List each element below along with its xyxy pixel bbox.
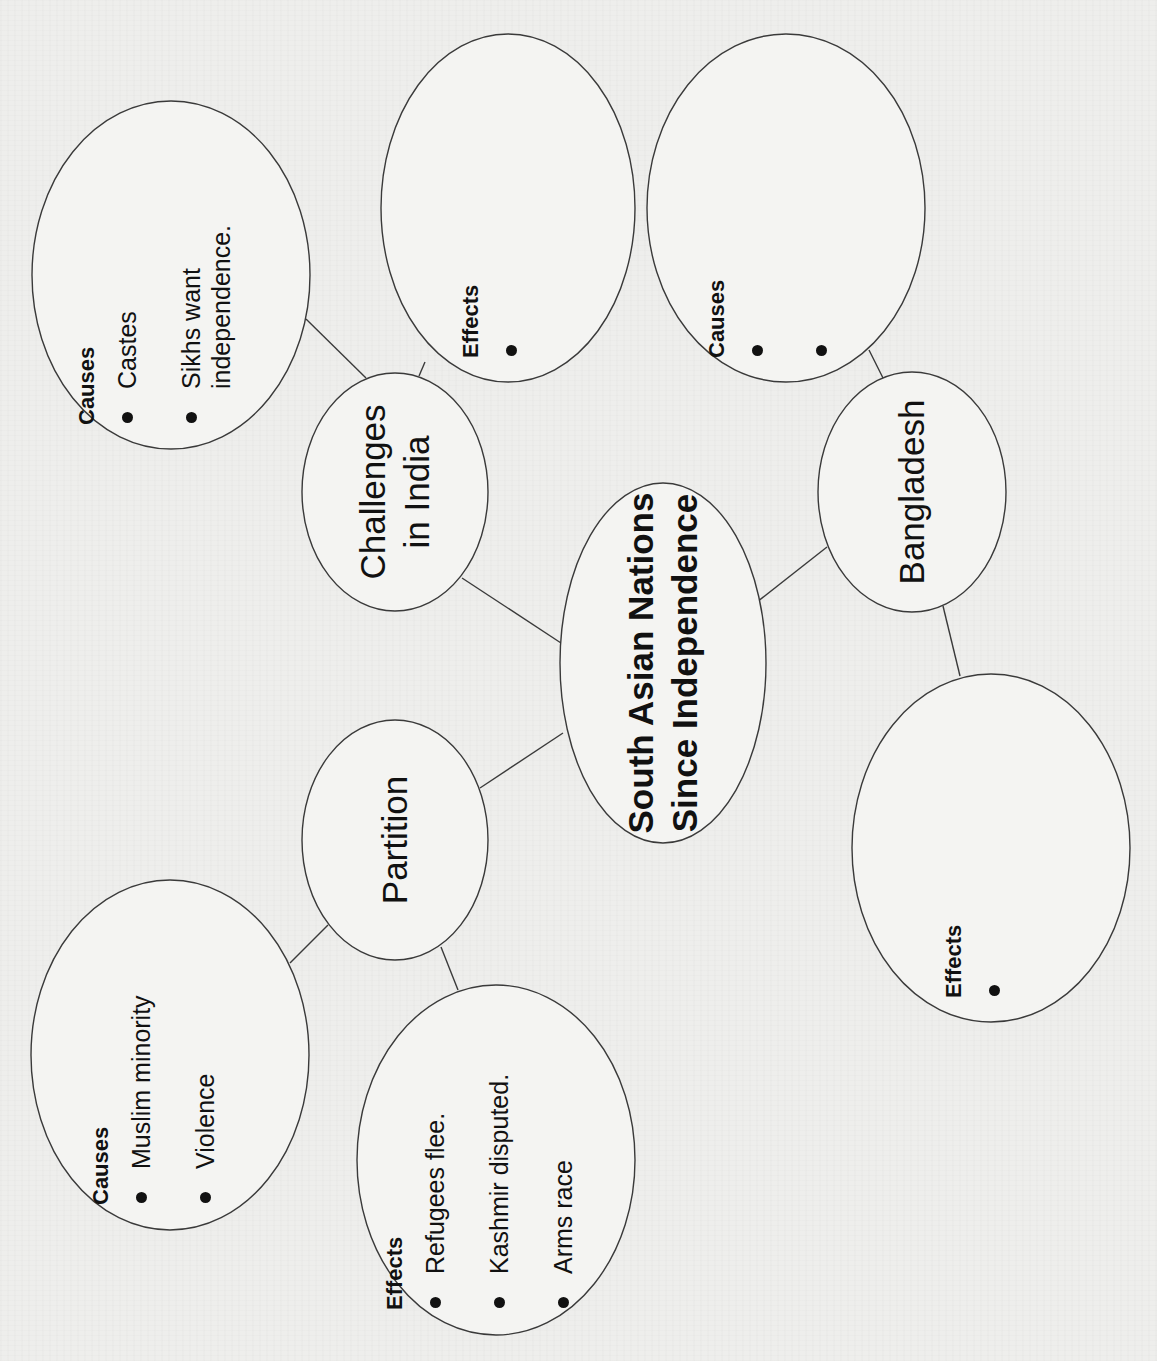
- bullet-item: Violence: [190, 905, 220, 1205]
- detail-partition-causes: CausesMuslim minorityViolence: [86, 905, 254, 1205]
- detail-india-effects: Effects: [456, 58, 560, 358]
- connector-challenges-india-to-india-causes: [306, 319, 366, 378]
- detail-heading: Causes: [702, 58, 732, 358]
- connector-partition-to-partition-effects: [441, 947, 458, 990]
- detail-heading: Effects: [939, 698, 969, 998]
- topic-bangladesh: Bangladesh: [890, 400, 934, 585]
- bullet-item: Refugees flee.: [420, 1010, 450, 1310]
- topic-label-line: Bangladesh: [890, 400, 934, 585]
- bullet-item: Sikhs want independence.: [176, 125, 236, 425]
- topic-label-line: in India: [395, 404, 439, 579]
- blank-bullet-item: [979, 698, 1009, 998]
- concept-web-diagram: South Asian NationsSince IndependenceCha…: [0, 0, 1157, 1361]
- bullet-item: Muslim minority: [126, 905, 156, 1205]
- bullet-list: [496, 58, 526, 358]
- detail-heading: Effects: [456, 58, 486, 358]
- blank-bullet-item: [806, 58, 836, 358]
- bullet-text: Refugees flee.: [421, 1113, 449, 1274]
- bullet-dot-icon: [136, 1192, 147, 1203]
- connector-bangladesh-to-bangladesh-effects: [943, 606, 960, 676]
- bullet-dot-icon: [186, 412, 197, 423]
- bullet-text: Arms race: [549, 1160, 577, 1274]
- bullet-list: [979, 698, 1009, 998]
- detail-bangladesh-effects: Effects: [939, 698, 1043, 998]
- connector-challenges-india-to-india-effects: [419, 362, 425, 376]
- bullet-list: Muslim minorityViolence: [126, 905, 220, 1205]
- connector-partition-to-partition-causes: [290, 925, 328, 963]
- blank-bullet-item: [496, 58, 526, 358]
- bullet-text: Castes: [113, 311, 141, 389]
- bullet-dot-icon: [430, 1297, 441, 1308]
- bullet-item: Castes: [112, 125, 142, 425]
- center-title: South Asian NationsSince Independence: [619, 493, 707, 834]
- bullet-text: Muslim minority: [127, 995, 155, 1169]
- bullet-list: Refugees flee.Kashmir disputed.Arms race: [420, 1010, 578, 1310]
- bullet-item: Kashmir disputed.: [484, 1010, 514, 1310]
- bullet-list: CastesSikhs want independence.: [112, 125, 236, 425]
- topic-label-line: Partition: [373, 776, 417, 904]
- bullet-dot-icon: [752, 345, 763, 356]
- bullet-dot-icon: [558, 1297, 569, 1308]
- detail-heading: Causes: [72, 125, 102, 425]
- bullet-text: Violence: [191, 1074, 219, 1169]
- center-title-line: South Asian Nations: [619, 493, 663, 834]
- bullet-item: Arms race: [548, 1010, 578, 1310]
- detail-india-causes: CausesCastesSikhs want independence.: [72, 125, 270, 425]
- detail-partition-effects: EffectsRefugees flee.Kashmir disputed.Ar…: [380, 1010, 612, 1310]
- detail-bangladesh-causes: Causes: [702, 58, 870, 358]
- bullet-dot-icon: [122, 412, 133, 423]
- center-title-line: Since Independence: [663, 493, 707, 834]
- bullet-dot-icon: [506, 345, 517, 356]
- connector-center-to-bangladesh: [757, 547, 827, 602]
- blank-bullet-item: [742, 58, 772, 358]
- bullet-dot-icon: [816, 345, 827, 356]
- connector-bangladesh-to-bangladesh-causes: [869, 350, 883, 378]
- bullet-text: Sikhs want independence.: [177, 225, 235, 389]
- topic-partition: Partition: [373, 776, 417, 904]
- bullet-dot-icon: [989, 985, 1000, 996]
- bullet-list: [742, 58, 836, 358]
- bullet-dot-icon: [200, 1192, 211, 1203]
- bullet-text: Kashmir disputed.: [485, 1074, 513, 1274]
- detail-heading: Effects: [380, 1010, 410, 1310]
- connector-center-to-challenges-india: [462, 578, 561, 643]
- topic-challenges-india: Challengesin India: [351, 404, 439, 579]
- connector-center-to-partition: [480, 733, 563, 788]
- topic-label-line: Challenges: [351, 404, 395, 579]
- bullet-dot-icon: [494, 1297, 505, 1308]
- detail-heading: Causes: [86, 905, 116, 1205]
